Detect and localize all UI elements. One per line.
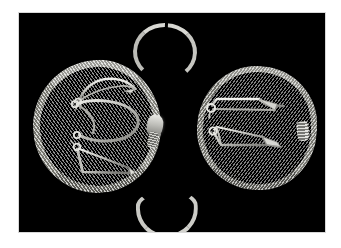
photograph-plate (19, 13, 325, 232)
artifact-fibula-right-2 (207, 123, 291, 159)
artifact-fibula-left-3 (69, 138, 147, 180)
torc-right-clasp-icon (296, 120, 310, 141)
artifact-bracelet-bottom (136, 189, 199, 232)
screenshot-root: Two braided wire torcs (neck rings) with… (0, 0, 341, 248)
artifact-bracelet-top (132, 22, 198, 82)
artifact-fibula-right-1 (205, 91, 289, 125)
